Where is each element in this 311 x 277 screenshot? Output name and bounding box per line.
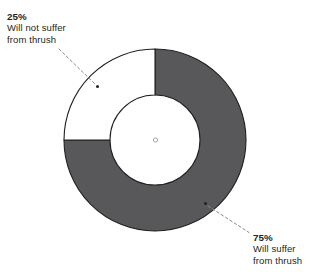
center-pivot-marker [153,138,157,142]
callout-text-suffer-line2: from thrush [253,255,302,266]
callout-percent-suffer: 75% [253,232,302,243]
callout-text-not-suffer-line2: from thrush [7,34,66,45]
callout-label-will-not-suffer: 25% Will not suffer from thrush [7,11,66,45]
anchor-dot-suffer [204,202,207,205]
anchor-dot-not-suffer [96,85,99,88]
callout-percent-not-suffer: 25% [7,11,66,22]
callout-text-not-suffer-line1: Will not suffer [7,22,66,33]
callout-label-will-suffer: 75% Will suffer from thrush [253,232,302,266]
callout-text-suffer-line1: Will suffer [253,243,302,254]
